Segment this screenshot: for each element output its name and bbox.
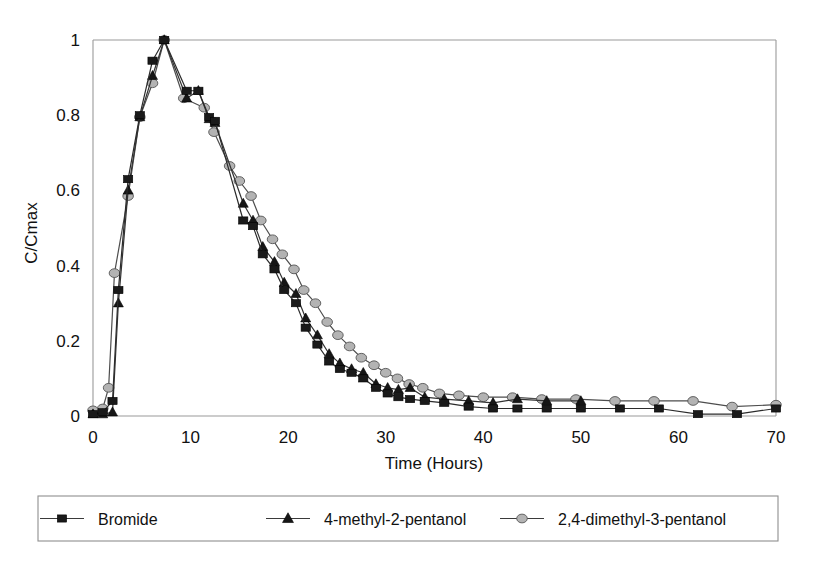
data-point-marker (310, 299, 321, 308)
data-point-marker (440, 399, 449, 406)
data-point-marker (383, 390, 392, 397)
y-axis-title: C/Cmax (22, 202, 41, 264)
y-tick-label: 0.2 (56, 332, 80, 351)
data-point-marker (313, 341, 322, 348)
data-point-marker (464, 403, 473, 410)
legend-label: 2,4-dimethyl-3-pentanol (558, 511, 726, 528)
y-tick-label: 0.4 (56, 257, 80, 276)
data-point-marker (693, 411, 702, 418)
x-tick-label: 10 (181, 428, 200, 447)
data-point-marker (394, 394, 403, 401)
data-point-marker (732, 411, 741, 418)
data-point-marker (649, 397, 660, 406)
data-point-marker (615, 405, 624, 412)
data-point-marker (182, 87, 191, 94)
y-tick-label: 0 (71, 407, 80, 426)
data-point-marker (576, 405, 585, 412)
data-point-marker (301, 324, 310, 331)
x-tick-label: 40 (474, 428, 493, 447)
data-point-marker (298, 286, 309, 295)
data-point-marker (369, 361, 380, 370)
data-point-marker (542, 405, 551, 412)
data-point-marker (380, 368, 391, 377)
breakthrough-curve-chart: 00.20.40.60.81 010203040506070 C/Cmax Ti… (0, 0, 821, 571)
data-point-marker (347, 369, 356, 376)
chart-figure: 00.20.40.60.81 010203040506070 C/Cmax Ti… (0, 0, 821, 571)
data-point-marker (406, 395, 415, 402)
data-point-marker (359, 375, 368, 382)
chart-background (0, 0, 821, 571)
y-tick-label: 1 (71, 31, 80, 50)
data-point-marker (727, 402, 738, 411)
data-point-marker (335, 365, 344, 372)
data-point-marker (98, 409, 107, 416)
legend-label: 4-methyl-2-pentanol (324, 511, 466, 528)
data-point-marker (291, 300, 300, 307)
x-tick-label: 60 (669, 428, 688, 447)
data-point-marker (392, 374, 403, 383)
chart-legend: Bromide4-methyl-2-pentanol2,4-dimethyl-3… (38, 496, 778, 541)
data-point-marker (267, 235, 278, 244)
data-point-marker (420, 397, 429, 404)
data-point-marker (333, 331, 344, 340)
data-point-marker (277, 250, 288, 259)
data-point-marker (114, 286, 123, 293)
legend-label: Bromide (98, 511, 158, 528)
data-point-marker (280, 286, 289, 293)
data-point-marker (418, 383, 429, 392)
x-tick-label: 50 (571, 428, 590, 447)
data-point-marker (610, 397, 621, 406)
x-tick-label: 20 (279, 428, 298, 447)
data-point-marker (160, 36, 169, 43)
data-point-marker (688, 397, 699, 406)
data-point-marker (135, 112, 144, 119)
data-point-marker (148, 57, 157, 64)
data-point-marker (356, 353, 367, 362)
data-point-marker (488, 405, 497, 412)
data-point-marker (248, 223, 257, 230)
data-point-marker (246, 192, 257, 201)
data-point-marker (103, 383, 114, 392)
data-point-marker (289, 265, 300, 274)
data-point-marker (344, 342, 355, 351)
data-point-marker (513, 405, 522, 412)
data-point-marker (478, 393, 489, 402)
x-axis-title: Time (Hours) (385, 454, 484, 473)
data-point-marker (239, 217, 248, 224)
x-tick-label: 30 (376, 428, 395, 447)
data-point-marker (194, 87, 203, 94)
data-point-marker (454, 391, 465, 400)
legend-marker-circle-icon (517, 514, 528, 523)
legend-marker-square-icon (57, 515, 66, 522)
data-point-marker (109, 269, 120, 278)
data-point-marker (108, 397, 117, 404)
data-point-marker (270, 266, 279, 273)
data-point-marker (88, 411, 97, 418)
data-point-marker (322, 318, 333, 327)
data-point-marker (371, 384, 380, 391)
data-point-marker (258, 251, 267, 258)
data-point-marker (654, 405, 663, 412)
y-tick-label: 0.6 (56, 181, 80, 200)
x-tick-label: 0 (88, 428, 97, 447)
x-tick-label: 70 (767, 428, 786, 447)
y-tick-label: 0.8 (56, 106, 80, 125)
data-point-marker (210, 117, 219, 124)
data-point-marker (771, 405, 780, 412)
data-point-marker (124, 176, 133, 183)
data-point-marker (325, 358, 334, 365)
